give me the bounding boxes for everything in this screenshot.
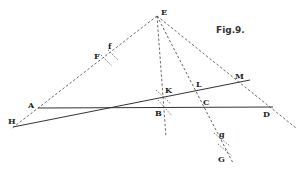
- line-HM: [13, 80, 250, 127]
- solid-lines: [13, 80, 273, 127]
- point-label-f: f: [108, 41, 112, 51]
- dashed-line-EB: [157, 16, 166, 137]
- point-label-g: g: [219, 129, 225, 139]
- geometry-diagram: Fig.9. EfFAHKBLCMDgG: [0, 0, 301, 170]
- tick-f: [108, 50, 118, 60]
- point-label-H: H: [8, 116, 16, 126]
- point-label-C: C: [203, 97, 209, 107]
- dashed-line-EH: [11, 16, 157, 129]
- point-label-A: A: [27, 100, 35, 110]
- point-label-L: L: [196, 79, 202, 89]
- dashed-lines: [11, 16, 296, 163]
- point-label-K: K: [165, 85, 173, 95]
- figure-title: Fig.9.: [216, 25, 245, 35]
- point-label-E: E: [161, 7, 167, 17]
- cross-ticks: [101, 50, 232, 156]
- point-label-B: B: [155, 108, 162, 118]
- point-label-G: G: [218, 154, 225, 164]
- point-label-D: D: [263, 109, 270, 119]
- point-label-M: M: [235, 71, 244, 81]
- point-label-F: F: [94, 51, 100, 61]
- tick-F: [101, 55, 112, 66]
